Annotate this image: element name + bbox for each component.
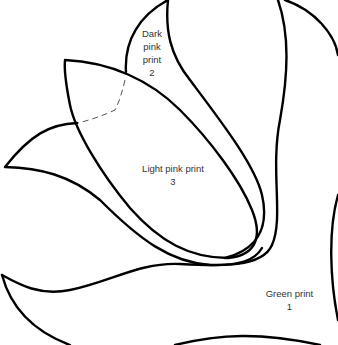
green-print-label: Green print 1	[252, 287, 327, 313]
green-label-line-1: Green print	[252, 287, 327, 300]
dark-pink-label-line-2: pink	[132, 40, 172, 53]
light-pink-print-label: Light pink print 3	[128, 162, 218, 188]
dark-pink-print-label: Dark pink print 2	[132, 27, 172, 79]
green-piece-right-lower-edge	[331, 195, 338, 320]
placement-dashed-line	[78, 80, 125, 123]
left-leaf-outline	[5, 123, 262, 265]
light-pink-piece-number: 3	[128, 175, 218, 188]
green-piece-number: 1	[252, 300, 327, 313]
dark-pink-label-line-3: print	[132, 53, 172, 66]
green-piece-bottom-edge	[2, 275, 70, 345]
dark-pink-piece-number: 2	[132, 66, 172, 79]
light-pink-piece-outline	[65, 60, 257, 258]
green-piece-right-edge	[285, 0, 338, 55]
light-pink-label-line-1: Light pink print	[128, 162, 218, 175]
green-piece-bottom-curve	[175, 336, 320, 345]
dark-pink-label-line-1: Dark	[132, 27, 172, 40]
